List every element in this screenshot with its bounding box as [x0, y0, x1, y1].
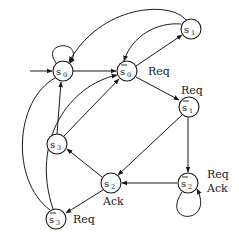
node-s1: s 1 [181, 19, 201, 39]
node-s2: s 2 [101, 173, 121, 193]
label-s0bar-req: Req [148, 65, 170, 78]
label-s2bar-req: Req [207, 168, 229, 181]
node-s0: s 0 [53, 61, 73, 81]
svg-text:s: s [184, 24, 189, 35]
label-s2bar-ack: Ack [206, 182, 228, 195]
svg-text:3: 3 [57, 144, 61, 152]
edge-s2-s3bar [66, 190, 103, 213]
label-s1bar-req: Req [181, 84, 203, 97]
node-s1bar: s 1 [179, 97, 199, 117]
edge-s3-s0 [57, 82, 61, 134]
svg-text:1: 1 [191, 29, 195, 37]
svg-text:s: s [182, 102, 187, 113]
svg-text:0: 0 [127, 71, 131, 79]
node-s3: s 3 [47, 134, 67, 154]
svg-text:s: s [49, 214, 54, 225]
output-labels: Req Req Ack Req Ack Req [73, 65, 229, 226]
svg-text:s: s [120, 66, 125, 77]
label-s2-ack: Ack [102, 195, 124, 208]
svg-text:0: 0 [63, 71, 67, 79]
svg-text:1: 1 [189, 107, 193, 115]
edge-s3-s0bar [64, 79, 119, 136]
svg-text:s: s [50, 139, 55, 150]
svg-text:s: s [181, 178, 186, 189]
edge-s0bar-s1 [136, 35, 182, 66]
edge-s2-s3 [67, 149, 102, 177]
svg-text:s: s [56, 66, 61, 77]
edge-s1-s0 [69, 9, 186, 62]
svg-text:2: 2 [188, 183, 192, 191]
state-diagram: s 0 s 0 s 1 s 1 s 3 s 2 [0, 0, 239, 240]
svg-text:s: s [104, 178, 109, 189]
svg-text:3: 3 [56, 219, 60, 227]
node-s0bar: s 0 [117, 61, 137, 81]
edge-s0bar-s1bar [136, 77, 179, 100]
svg-text:2: 2 [111, 183, 115, 191]
node-s3bar: s 3 [46, 209, 66, 229]
label-s3bar-req: Req [73, 213, 95, 226]
edge-s1bar-s2 [118, 115, 182, 175]
node-s2bar: s 2 [178, 173, 198, 193]
